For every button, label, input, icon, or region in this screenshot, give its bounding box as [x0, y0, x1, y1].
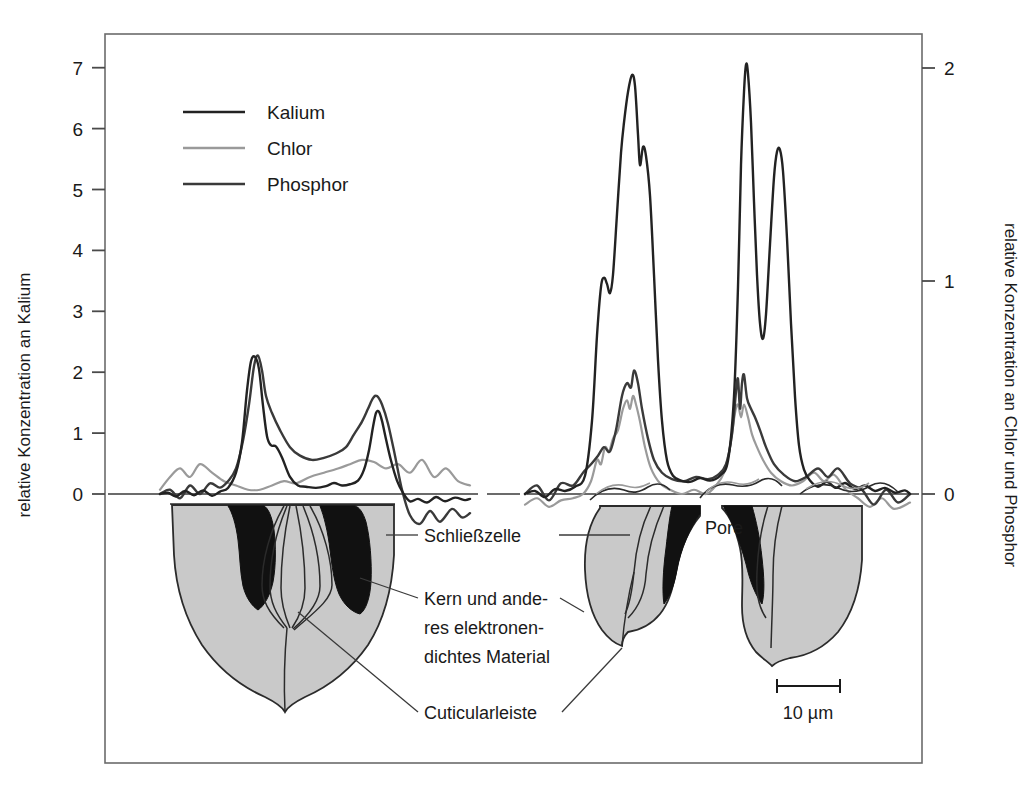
legend-label-phosphor: Phosphor [267, 174, 349, 195]
left-tick-label-7: 7 [72, 58, 83, 79]
diagram-open-guard-cell [585, 479, 898, 666]
left-axis: 01234567 relative Konzentration an Kaliu… [15, 58, 105, 518]
right-axis-tick-labels: 012 [944, 58, 955, 505]
legend-label-kalium: Kalium [267, 102, 325, 123]
stomata-element-concentration-figure: 01234567 relative Konzentration an Kaliu… [0, 0, 1030, 785]
right-axis-ticks [922, 68, 935, 494]
label-schliesszelle: Schließzelle [424, 526, 521, 546]
label-pore: Pore [705, 518, 743, 538]
scale-bar: 10 µm [777, 679, 840, 723]
left-axis-ticks [92, 68, 105, 494]
leader-kern-right [560, 598, 584, 612]
figure-canvas: 01234567 relative Konzentration an Kaliu… [0, 0, 1030, 785]
right-axis-title: relative Konzentration an Chlor und Phos… [1001, 223, 1020, 567]
label-kern-line1: Kern und ande- [424, 589, 548, 609]
left-tick-label-3: 3 [72, 301, 83, 322]
right-tick-label-0: 0 [944, 484, 955, 505]
legend: KaliumChlorPhosphor [183, 102, 349, 195]
left-tick-label-4: 4 [72, 240, 83, 261]
open-cell-cuticle-left-inner [596, 483, 650, 494]
left-tick-label-0: 0 [72, 484, 83, 505]
right-tick-label-2: 2 [944, 58, 955, 79]
trace-panel-open [525, 63, 910, 509]
left-tick-label-1: 1 [72, 423, 83, 444]
diagram-closed-guard-cell [170, 504, 395, 712]
left-tick-label-6: 6 [72, 119, 83, 140]
left-tick-label-5: 5 [72, 180, 83, 201]
scale-bar-label: 10 µm [783, 703, 833, 723]
left-axis-title: relative Konzentration an Kalium [15, 273, 34, 518]
leader-cuticularleiste-right [562, 648, 622, 712]
trace-phosphor-closed [160, 355, 470, 523]
left-axis-tick-labels: 01234567 [72, 58, 83, 505]
left-tick-label-2: 2 [72, 362, 83, 383]
label-cuticularleiste: Cuticularleiste [424, 703, 537, 723]
trace-panel-closed [160, 355, 470, 523]
label-kern-line2: res elektronen- [424, 618, 544, 638]
trace-kalium-open [525, 63, 910, 497]
right-tick-label-1: 1 [944, 271, 955, 292]
trace-kalium-closed [160, 356, 470, 502]
concentration-traces [160, 63, 910, 523]
label-kern-line3: dichtes Material [424, 647, 550, 667]
right-axis: 012 relative Konzentration an Chlor und … [922, 58, 1020, 567]
annotation-labels: Schließzelle Kern und ande- res elektron… [424, 518, 743, 723]
legend-label-chlor: Chlor [267, 138, 313, 159]
